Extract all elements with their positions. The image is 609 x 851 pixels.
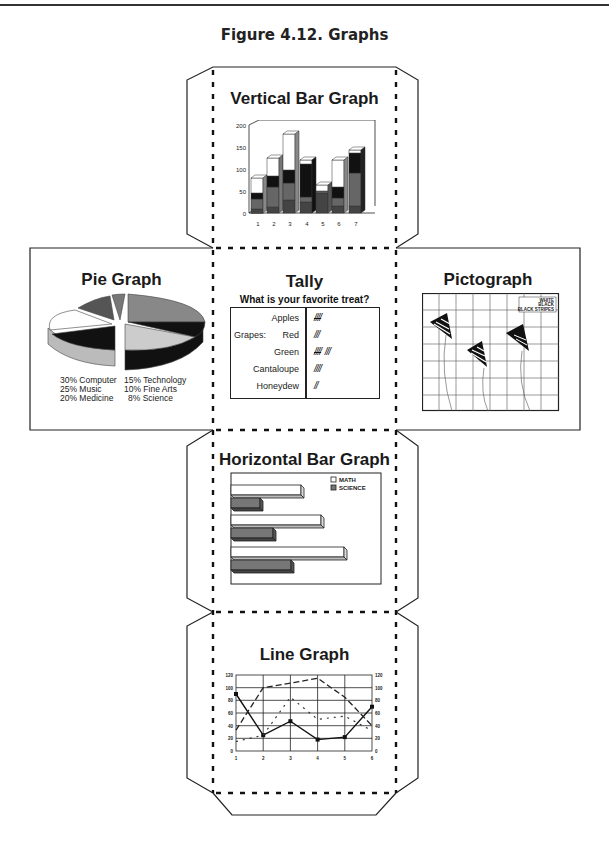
- svg-text:100: 100: [236, 167, 247, 173]
- svg-text:60: 60: [228, 711, 234, 716]
- svg-text:120: 120: [225, 673, 233, 678]
- svg-text:3: 3: [289, 756, 292, 761]
- tally-row: Cantaloupe ////: [231, 361, 379, 378]
- tally-label-honeydew: Honeydew: [256, 381, 299, 391]
- svg-text:3: 3: [288, 221, 292, 227]
- svg-text:2: 2: [272, 221, 276, 227]
- svg-text:6: 6: [337, 221, 341, 227]
- pie-legend-medicine: 20% Medicine: [60, 394, 124, 403]
- svg-text:20: 20: [375, 736, 381, 741]
- tally-marks-red: ///: [314, 329, 319, 340]
- line-chart: 1201008060 40200 1201008060 40200 123 45…: [224, 672, 386, 762]
- tally-row: Honeydew //: [231, 378, 379, 395]
- svg-text:0: 0: [243, 211, 247, 217]
- svg-text:0: 0: [375, 749, 378, 754]
- tally-question: What is your favorite treat?: [213, 294, 396, 305]
- tally-label-apples: Apples: [271, 313, 299, 323]
- svg-text:80: 80: [228, 698, 234, 703]
- tally-label-green: Green: [274, 347, 299, 357]
- tally-marks-apples: ////: [314, 312, 321, 323]
- svg-text:120: 120: [375, 673, 383, 678]
- svg-text:40: 40: [375, 724, 381, 729]
- svg-text:150: 150: [236, 145, 247, 151]
- tally-row: Green //// ///: [231, 344, 379, 361]
- svg-text:100: 100: [225, 686, 233, 691]
- svg-text:100: 100: [375, 686, 383, 691]
- legend-math: MATH: [339, 477, 356, 483]
- tally-group-grapes: Grapes:: [234, 330, 266, 340]
- horizontal-bar-chart: MATH SCIENCE: [230, 472, 385, 587]
- pie-legend: 30% Computer15% Technology 25% Music10% …: [60, 376, 186, 403]
- svg-text:200: 200: [236, 123, 247, 129]
- tally-row: Apples ////: [231, 310, 379, 327]
- svg-text:4: 4: [316, 756, 319, 761]
- svg-text:40: 40: [228, 724, 234, 729]
- svg-text:20: 20: [228, 736, 234, 741]
- legend-science: SCIENCE: [339, 485, 366, 491]
- svg-text:80: 80: [375, 698, 381, 703]
- svg-text:5: 5: [344, 756, 347, 761]
- svg-text:7: 7: [354, 221, 358, 227]
- svg-text:50: 50: [239, 189, 246, 195]
- tally-label-cantaloupe: Cantaloupe: [253, 364, 299, 374]
- pie-legend-science: 8% Science: [124, 393, 173, 403]
- tally-title: Tally: [213, 272, 396, 292]
- pie-chart: [40, 292, 210, 372]
- horizontal-bar-title: Horizontal Bar Graph: [213, 450, 396, 470]
- pictograph-title: Pictograph: [396, 270, 580, 290]
- svg-text:6: 6: [371, 756, 374, 761]
- svg-text:0: 0: [230, 749, 233, 754]
- tally-label-red: Red: [282, 330, 299, 340]
- svg-text:1: 1: [256, 221, 260, 227]
- pictograph-chart: WHITE BLACK BLACK STRIPES: [422, 293, 560, 413]
- svg-text:4: 4: [305, 221, 309, 227]
- svg-text:5: 5: [321, 221, 325, 227]
- tally-row: Grapes: Red ///: [231, 327, 379, 344]
- svg-text:2: 2: [262, 756, 265, 761]
- vertical-bar-title: Vertical Bar Graph: [213, 89, 396, 109]
- tally-marks-cantaloupe: ////: [314, 363, 321, 374]
- tally-marks-honeydew: //: [314, 380, 318, 391]
- svg-text:60: 60: [375, 711, 381, 716]
- tally-marks-green: //// ///: [314, 346, 330, 357]
- pie-graph-title: Pie Graph: [30, 270, 213, 290]
- pictograph-legend-black-stripes: BLACK STRIPES: [518, 307, 554, 312]
- vertical-bar-chart: 050100 150200 123 4567: [225, 120, 390, 230]
- tally-table: Apples //// Grapes: Red /// Green //// /…: [230, 307, 380, 399]
- line-graph-title: Line Graph: [213, 645, 396, 665]
- svg-text:1: 1: [235, 756, 238, 761]
